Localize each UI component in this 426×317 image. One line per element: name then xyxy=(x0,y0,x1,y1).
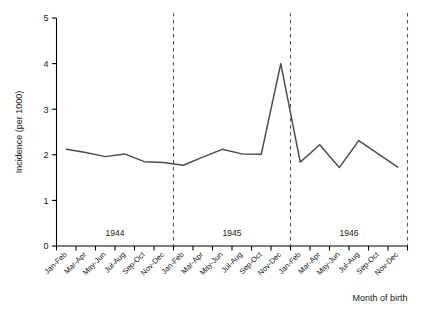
y-tick-label: 0 xyxy=(43,241,48,251)
year-group-label: 1946 xyxy=(340,228,359,238)
y-tick-label: 3 xyxy=(43,105,48,115)
y-tick-label: 1 xyxy=(43,196,48,206)
year-group-label: 1945 xyxy=(223,228,242,238)
chart-canvas: 012345Incidence (per 1000)Jan-FebMar-Apr… xyxy=(0,0,426,317)
x-axis-title: Month of birth xyxy=(352,293,407,303)
incidence-line-chart: 012345Incidence (per 1000)Jan-FebMar-Apr… xyxy=(0,0,426,317)
y-axis-title: Incidence (per 1000) xyxy=(14,91,24,174)
y-tick-label: 5 xyxy=(43,13,48,23)
y-tick-label: 2 xyxy=(43,150,48,160)
y-tick-label: 4 xyxy=(43,59,48,69)
year-group-label: 1944 xyxy=(106,228,125,238)
incidence-series-line xyxy=(66,64,398,168)
